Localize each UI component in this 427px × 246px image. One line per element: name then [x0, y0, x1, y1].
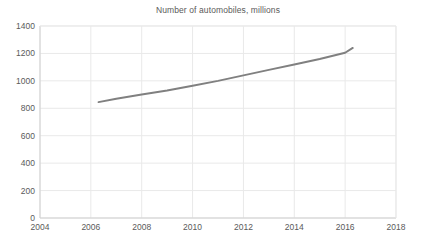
x-axis-tick-label: 2010: [183, 222, 202, 232]
x-axis-tick-label: 2018: [387, 222, 406, 232]
x-axis-tick-label: 2006: [81, 222, 100, 232]
x-axis-tick-label: 2004: [31, 222, 50, 232]
y-axis-tick-label: 600: [21, 131, 35, 141]
y-axis-tick-label: 800: [21, 103, 35, 113]
data-series-group: [98, 48, 352, 102]
series-line: [98, 48, 352, 102]
x-axis-tick-label: 2014: [285, 222, 304, 232]
y-axis-tick-label: 1400: [16, 21, 35, 31]
y-axis-tick-label: 200: [21, 186, 35, 196]
line-chart: Number of automobiles, millions 02004006…: [0, 0, 427, 246]
y-axis-tick-label: 400: [21, 158, 35, 168]
gridlines-group: [40, 26, 396, 218]
x-axis-tick-label: 2016: [336, 222, 355, 232]
y-axis-tick-label: 1200: [16, 48, 35, 58]
x-axis-tick-label: 2008: [132, 222, 151, 232]
x-axis-tick-label: 2012: [234, 222, 253, 232]
y-axis-tick-labels: 0200400600800100012001400: [16, 21, 35, 223]
y-axis-tick-label: 1000: [16, 76, 35, 86]
axis-lines-group: [40, 26, 396, 218]
x-axis-tick-labels: 20042006200820102012201420162018: [31, 222, 406, 232]
chart-plot-area: 0200400600800100012001400 20042006200820…: [0, 0, 427, 246]
